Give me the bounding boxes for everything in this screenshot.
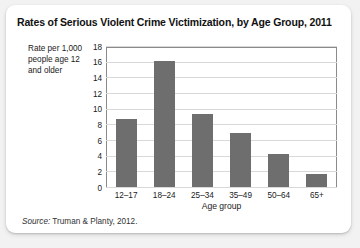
bar [268, 154, 289, 187]
bar [116, 119, 137, 187]
x-axis-tick-label: 12–17 [115, 191, 138, 200]
bar-slot: 12–17 [107, 48, 145, 187]
gridline: 18 [106, 46, 337, 47]
chart-card: Rates of Serious Violent Crime Victimiza… [6, 5, 351, 233]
y-axis-label-line-1: Rate per 1,000 [28, 43, 96, 54]
x-axis-tick-label: 25–34 [191, 191, 214, 200]
y-axis-tick-label: 18 [93, 42, 102, 51]
y-axis-tick-label: 10 [93, 105, 102, 114]
bar [192, 114, 213, 187]
source-note: Source: Truman & Planty, 2012. [22, 217, 137, 226]
x-axis-tick-label: 65+ [310, 191, 324, 200]
y-axis-label: Rate per 1,000 people age 12 and older [28, 43, 96, 77]
gridline: 0 [106, 187, 337, 188]
y-axis-tick-label: 2 [97, 167, 102, 176]
x-axis-tick-label: 18–24 [153, 191, 176, 200]
y-axis-tick-label: 6 [97, 136, 102, 145]
x-axis-tick-label: 50–64 [267, 191, 290, 200]
bar-slot: 25–34 [183, 48, 221, 187]
y-axis-tick-label: 12 [93, 89, 102, 98]
y-axis-tick-label: 4 [97, 152, 102, 161]
bar-slot: 35–49 [222, 48, 260, 187]
y-axis-tick-label: 16 [93, 58, 102, 67]
chart-title: Rates of Serious Violent Crime Victimiza… [17, 16, 342, 28]
y-axis-label-line-2: people age 12 [28, 54, 96, 65]
bar-slot: 18–24 [145, 48, 183, 187]
y-axis-tick-label: 14 [93, 73, 102, 82]
bar [154, 61, 175, 187]
y-axis-label-line-3: and older [28, 65, 96, 76]
x-axis-tick-label: 35–49 [229, 191, 252, 200]
bar-slot: 65+ [298, 48, 336, 187]
plot-area: 024681012141618 12–1718–2425–3435–4950–6… [106, 47, 337, 188]
bar [306, 174, 327, 187]
bar-slot: 50–64 [260, 48, 298, 187]
source-text: Truman & Planty, 2012. [50, 217, 137, 226]
y-axis-tick-label: 0 [97, 183, 102, 192]
y-axis-tick-label: 8 [97, 120, 102, 129]
source-keyword: Source: [22, 217, 50, 226]
x-axis-label: Age group [106, 201, 337, 211]
bar [230, 133, 251, 187]
bar-series: 12–1718–2425–3435–4950–6465+ [107, 48, 336, 187]
